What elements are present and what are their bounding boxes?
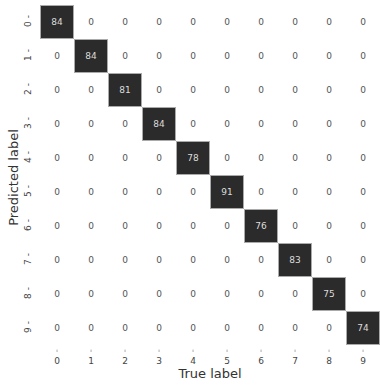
matrix-cell: 0 [142, 175, 176, 209]
confusion-matrix-grid: 8400000000008400000000008100000000008400… [40, 5, 380, 345]
matrix-cell: 0 [142, 277, 176, 311]
y-tick-label: 3 - [23, 117, 33, 129]
x-tick-label: ˈ9 [346, 350, 380, 366]
matrix-cell: 0 [74, 209, 108, 243]
matrix-cell: 0 [346, 209, 380, 243]
matrix-cell: 0 [40, 311, 74, 345]
matrix-cell: 0 [278, 107, 312, 141]
matrix-cell: 0 [74, 175, 108, 209]
matrix-cell: 0 [346, 243, 380, 277]
matrix-cell: 0 [142, 73, 176, 107]
matrix-cell: 0 [244, 39, 278, 73]
matrix-cell: 91 [210, 175, 244, 209]
matrix-cell: 76 [244, 209, 278, 243]
matrix-cell: 0 [108, 243, 142, 277]
matrix-cell: 0 [278, 141, 312, 175]
x-tick-label: ˈ3 [142, 350, 176, 366]
matrix-cell: 0 [346, 73, 380, 107]
y-tick-label: 0 - [23, 15, 33, 27]
matrix-cell: 0 [74, 141, 108, 175]
matrix-cell: 0 [346, 141, 380, 175]
x-axis-label: True label [40, 366, 380, 381]
matrix-cell: 0 [312, 175, 346, 209]
matrix-cell: 0 [278, 5, 312, 39]
matrix-cell: 0 [244, 5, 278, 39]
matrix-cell: 0 [108, 277, 142, 311]
x-tick-label: ˈ6 [244, 350, 278, 366]
matrix-cell: 0 [278, 73, 312, 107]
matrix-cell: 84 [74, 39, 108, 73]
matrix-cell: 0 [142, 141, 176, 175]
x-tick-label: ˈ0 [40, 350, 74, 366]
matrix-cell: 0 [142, 243, 176, 277]
matrix-cell: 0 [40, 277, 74, 311]
matrix-cell: 0 [74, 73, 108, 107]
matrix-cell: 0 [210, 311, 244, 345]
y-tick-label: 8 - [23, 287, 33, 299]
y-tick-label: 6 - [23, 219, 33, 231]
matrix-cell: 0 [210, 107, 244, 141]
matrix-cell: 0 [244, 107, 278, 141]
matrix-cell: 0 [108, 107, 142, 141]
matrix-cell: 0 [346, 5, 380, 39]
matrix-cell: 0 [176, 39, 210, 73]
matrix-cell: 0 [278, 39, 312, 73]
matrix-cell: 0 [312, 243, 346, 277]
matrix-cell: 0 [74, 277, 108, 311]
matrix-cell: 0 [244, 73, 278, 107]
matrix-cell: 0 [346, 107, 380, 141]
matrix-cell: 0 [108, 5, 142, 39]
matrix-cell: 0 [312, 5, 346, 39]
matrix-cell: 0 [346, 277, 380, 311]
x-tick-label: ˈ2 [108, 350, 142, 366]
matrix-cell: 0 [278, 277, 312, 311]
x-tick-label: ˈ8 [312, 350, 346, 366]
matrix-cell: 0 [346, 39, 380, 73]
matrix-cell: 0 [312, 311, 346, 345]
x-tick-label: ˈ5 [210, 350, 244, 366]
matrix-cell: 0 [244, 311, 278, 345]
matrix-cell: 0 [312, 73, 346, 107]
matrix-cell: 0 [176, 209, 210, 243]
matrix-cell: 0 [142, 209, 176, 243]
matrix-cell: 0 [40, 175, 74, 209]
matrix-cell: 0 [244, 175, 278, 209]
y-tick-label: 4 - [23, 151, 33, 163]
matrix-cell: 0 [278, 209, 312, 243]
matrix-cell: 0 [40, 209, 74, 243]
matrix-cell: 0 [108, 141, 142, 175]
matrix-cell: 0 [108, 39, 142, 73]
matrix-cell: 0 [176, 243, 210, 277]
matrix-cell: 0 [142, 39, 176, 73]
matrix-cell: 0 [176, 277, 210, 311]
matrix-cell: 0 [210, 5, 244, 39]
matrix-cell: 0 [210, 209, 244, 243]
x-tick-label: ˈ7 [278, 350, 312, 366]
matrix-cell: 0 [278, 311, 312, 345]
matrix-cell: 0 [74, 243, 108, 277]
matrix-cell: 0 [210, 39, 244, 73]
matrix-cell: 0 [74, 107, 108, 141]
matrix-cell: 0 [74, 5, 108, 39]
x-tick-label: ˈ4 [176, 350, 210, 366]
y-tick-label: 5 - [23, 185, 33, 197]
matrix-cell: 0 [312, 39, 346, 73]
y-tick-label: 9 - [23, 321, 33, 333]
matrix-cell: 0 [346, 175, 380, 209]
matrix-cell: 81 [108, 73, 142, 107]
matrix-cell: 0 [244, 277, 278, 311]
y-axis-label: Predicted label [6, 123, 21, 233]
matrix-cell: 0 [312, 107, 346, 141]
matrix-cell: 0 [176, 311, 210, 345]
matrix-cell: 0 [244, 243, 278, 277]
matrix-cell: 84 [40, 5, 74, 39]
matrix-cell: 0 [108, 311, 142, 345]
x-tick-label: ˈ1 [74, 350, 108, 366]
matrix-cell: 0 [176, 5, 210, 39]
matrix-cell: 0 [210, 243, 244, 277]
matrix-cell: 0 [40, 243, 74, 277]
matrix-cell: 0 [74, 311, 108, 345]
matrix-cell: 0 [176, 175, 210, 209]
matrix-cell: 0 [108, 209, 142, 243]
matrix-cell: 0 [278, 175, 312, 209]
